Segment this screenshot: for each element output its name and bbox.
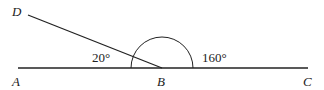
point-label-a: A — [11, 74, 20, 89]
angle-diagram: D A B C 20° 160° — [0, 0, 324, 90]
point-label-c: C — [303, 74, 312, 89]
angle-arc — [131, 37, 193, 68]
angle-label-20: 20° — [92, 50, 110, 65]
point-label-d: D — [11, 4, 22, 19]
point-label-b: B — [157, 74, 165, 89]
angle-label-160: 160° — [202, 50, 227, 65]
